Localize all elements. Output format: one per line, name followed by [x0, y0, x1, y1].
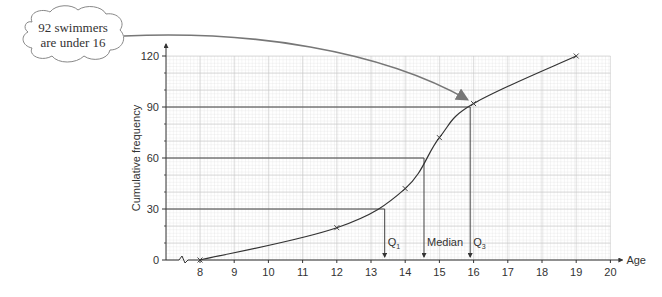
cumulative-frequency-chart: 0306090120891011121314151617181920AgeCum…	[0, 0, 662, 297]
quartile-subscript: 1	[396, 243, 400, 250]
x-tick-label: 18	[536, 266, 548, 278]
callout-text-line2: are under 16	[41, 35, 106, 50]
y-tick-label: 90	[147, 101, 159, 113]
x-tick-label: 12	[331, 266, 343, 278]
x-axis-label: Age	[626, 254, 646, 266]
x-tick-label: 8	[197, 266, 203, 278]
x-tick-label: 19	[570, 266, 582, 278]
y-tick-label: 60	[147, 152, 159, 164]
y-axis-label: Cumulative frequency	[130, 104, 142, 211]
x-tick-label: 10	[262, 266, 274, 278]
quartile-label-median: Median	[427, 236, 463, 248]
y-tick-label: 120	[141, 50, 159, 62]
x-tick-label: 14	[399, 266, 411, 278]
x-tick-label: 15	[433, 266, 445, 278]
y-tick-label: 30	[147, 203, 159, 215]
x-tick-label: 16	[467, 266, 479, 278]
x-tick-label: 20	[604, 266, 616, 278]
x-tick-label: 13	[365, 266, 377, 278]
callout-text-line1: 92 swimmers	[38, 20, 108, 35]
quartile-subscript: 3	[482, 243, 486, 250]
x-tick-label: 9	[231, 266, 237, 278]
y-tick-label: 0	[153, 254, 159, 266]
x-tick-label: 17	[502, 266, 514, 278]
x-tick-label: 11	[297, 266, 308, 278]
